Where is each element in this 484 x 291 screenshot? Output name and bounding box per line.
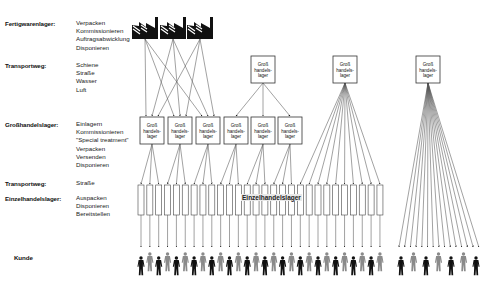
flow-line	[422, 83, 428, 247]
network-graphic	[0, 0, 484, 291]
flow-line	[428, 83, 429, 247]
person-icon	[146, 252, 153, 271]
flow-line	[180, 144, 185, 184]
flow-line	[405, 83, 428, 247]
flow-line	[428, 83, 467, 247]
retail-box	[165, 185, 171, 215]
wholesale-box-label: Großhandels-lager	[251, 62, 275, 79]
flow-line	[327, 83, 345, 184]
person-icon	[137, 256, 144, 275]
person-icon	[270, 252, 277, 271]
wholesale-box-label: Großhandels-lager	[278, 123, 302, 140]
person-icon	[397, 256, 404, 275]
person-icon	[288, 252, 295, 271]
person-icon	[447, 256, 454, 275]
flow-line	[186, 39, 200, 116]
person-icon	[472, 256, 479, 275]
person-icon	[460, 252, 467, 271]
flow-line	[428, 83, 479, 247]
retail-box	[138, 185, 144, 215]
person-icon	[191, 256, 198, 275]
person-icon	[359, 252, 366, 271]
flow-line	[283, 144, 290, 184]
wholesale-box-label: Großhandels-lager	[140, 123, 164, 140]
person-icon	[314, 256, 321, 275]
retail-box	[209, 185, 215, 215]
retail-box	[315, 185, 321, 215]
flow-line	[428, 83, 439, 247]
flow-line	[428, 83, 473, 247]
factory-icon	[187, 17, 213, 39]
flow-line	[236, 83, 263, 116]
flow-line	[208, 144, 212, 184]
flow-line	[263, 83, 290, 116]
flow-line	[318, 83, 345, 184]
flow-line	[152, 144, 159, 184]
flow-line	[145, 39, 146, 116]
factory-icon	[160, 17, 186, 39]
person-icon	[332, 256, 339, 275]
person-icon	[279, 256, 286, 275]
retail-box	[359, 185, 365, 215]
person-icon	[422, 256, 429, 275]
person-icon	[155, 256, 162, 275]
person-icon	[261, 256, 268, 275]
person-icon	[217, 252, 224, 271]
wholesale-box-label: Großhandels-lager	[251, 123, 275, 140]
person-icon	[173, 256, 180, 275]
flow-line	[173, 39, 208, 116]
flow-line	[416, 83, 428, 247]
person-icon	[306, 252, 313, 271]
person-icon	[410, 252, 417, 271]
retail-box	[342, 185, 348, 215]
flow-line	[221, 144, 236, 184]
retail-box	[350, 185, 356, 215]
flow-line	[194, 144, 208, 184]
flow-line	[256, 144, 263, 184]
retail-box	[368, 185, 374, 215]
person-icon	[252, 252, 259, 271]
person-icon	[368, 256, 375, 275]
wholesale-box-label: Großhandels-lager	[416, 62, 440, 79]
person-icon	[199, 252, 206, 271]
flow-line	[300, 83, 345, 184]
flow-line	[274, 144, 290, 184]
person-icon	[297, 256, 304, 275]
flow-line	[309, 83, 345, 184]
retail-box	[191, 185, 197, 215]
person-icon	[350, 256, 357, 275]
flow-line	[345, 83, 371, 184]
wholesale-box-label: Großhandels-lager	[168, 123, 192, 140]
flow-line	[203, 144, 208, 184]
flow-line	[200, 39, 214, 116]
flow-line	[336, 83, 345, 184]
person-icon	[182, 252, 189, 271]
retail-box	[227, 185, 233, 215]
person-icon	[435, 252, 442, 271]
retail-warehouse-label: Einzelhandelslager	[241, 194, 302, 201]
flow-line	[345, 83, 380, 184]
wholesale-box-label: Großhandels-lager	[196, 123, 220, 140]
person-icon	[376, 252, 383, 271]
retail-box	[173, 185, 179, 215]
person-icon	[235, 252, 242, 271]
factory-icon	[132, 17, 158, 39]
flow-line	[428, 83, 450, 247]
flow-line	[345, 83, 353, 184]
flow-line	[236, 144, 238, 184]
flow-line	[399, 83, 428, 247]
retail-box	[306, 185, 312, 215]
wholesale-box-label: Großhandels-lager	[224, 123, 248, 140]
retail-box	[324, 185, 330, 215]
retail-box	[333, 185, 339, 215]
retail-box	[147, 185, 153, 215]
flow-line	[428, 83, 462, 247]
distribution-diagram: Fertigwarenlager: Verpacken Kommissionie…	[0, 0, 484, 291]
person-icon	[341, 252, 348, 271]
flow-line	[247, 144, 263, 184]
person-icon	[323, 252, 330, 271]
wholesale-box-label: Großhandels-lager	[333, 62, 357, 79]
person-icon	[208, 256, 215, 275]
flow-line	[263, 144, 265, 184]
person-icon	[226, 256, 233, 275]
